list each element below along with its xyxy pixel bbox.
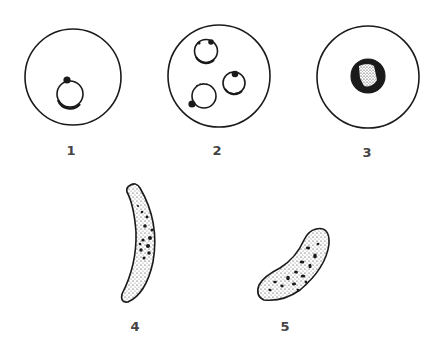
- panel-label-4: 4: [130, 319, 139, 334]
- panel-label-5: 5: [280, 319, 289, 334]
- panel-label-2: 2: [212, 143, 221, 158]
- panel-1-cell: [25, 29, 121, 125]
- panel-label-3: 3: [362, 145, 371, 160]
- chromatin-dot: [63, 76, 70, 83]
- panel-label-1: 1: [66, 143, 75, 158]
- chromatin-dot: [197, 41, 200, 44]
- ring-form: [223, 71, 245, 94]
- panel-3-cell: [317, 26, 419, 128]
- trophozoite: [351, 59, 385, 93]
- ring-form: [195, 39, 218, 63]
- figure-canvas: [0, 0, 446, 346]
- panel-4-crescent-gametocyte: [122, 184, 155, 302]
- ring-form: [57, 76, 83, 108]
- chromatin-dot: [188, 100, 195, 107]
- panel-2-cell: [168, 25, 270, 127]
- chromatin-dot: [232, 71, 239, 78]
- panel-5-sausage-gametocyte: [258, 229, 329, 301]
- chromatin-dot: [208, 39, 214, 45]
- ring-form: [188, 83, 216, 108]
